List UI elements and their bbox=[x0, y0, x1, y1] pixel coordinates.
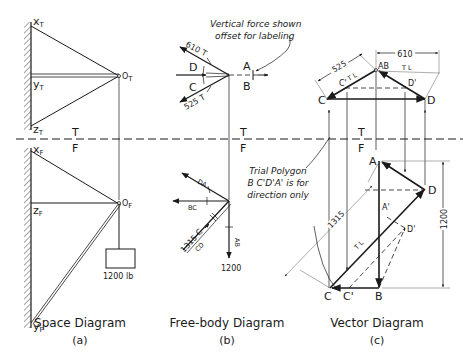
annotation-offset-line2: offset for labeling bbox=[215, 31, 295, 41]
member-xo-top bbox=[31, 26, 119, 76]
label-z-front: zF bbox=[33, 204, 43, 218]
trial-polygon-line2: B C'D'A' is for bbox=[247, 178, 309, 188]
vector-cd-front bbox=[330, 190, 424, 288]
member-zo-top bbox=[31, 76, 119, 126]
label-1200: 1200 bbox=[221, 264, 241, 273]
label-c-top: C bbox=[318, 94, 326, 107]
engineering-figure: xT yT zT OT xF zF yF OF 1200 lb T F Spac… bbox=[0, 0, 463, 356]
vector-da-front bbox=[382, 162, 425, 190]
label-ab: AB bbox=[233, 238, 241, 247]
caption-vector-diagram: Vector Diagram bbox=[330, 316, 424, 330]
fold-label-t: T bbox=[71, 126, 79, 139]
label-x-top: xT bbox=[33, 15, 45, 29]
caption-sub-b: (b) bbox=[219, 334, 235, 347]
caption-space-diagram: Space Diagram bbox=[34, 316, 126, 330]
label-b-front: B bbox=[375, 290, 383, 303]
force-da-arrow bbox=[182, 173, 229, 201]
label-bc: BC bbox=[188, 204, 197, 212]
label-d-front: D bbox=[428, 184, 436, 197]
label-d-prime-front: D' bbox=[407, 225, 415, 234]
fold-label-t-b: T bbox=[239, 126, 247, 139]
annotation-pointer bbox=[256, 36, 290, 71]
caption-sub-c: (c) bbox=[370, 334, 385, 347]
load-box bbox=[106, 249, 135, 268]
label-tl-front: T L bbox=[352, 239, 365, 252]
region-c: C bbox=[189, 81, 197, 94]
label-y-top: yT bbox=[33, 78, 45, 92]
label-1200-vector: 1200 bbox=[440, 209, 449, 229]
label-o-front: OF bbox=[122, 199, 132, 210]
member-xo-front bbox=[31, 151, 119, 204]
fold-label-f: F bbox=[72, 142, 78, 155]
label-c-prime-front: C' bbox=[343, 290, 354, 303]
label-525t: 525 T bbox=[183, 93, 207, 112]
label-c-prime-top: C' bbox=[339, 79, 347, 88]
region-b: B bbox=[243, 80, 251, 93]
label-o-top: OT bbox=[122, 72, 133, 83]
annotation-offset-line1: Vertical force shown bbox=[210, 19, 302, 29]
fold-label-f-c: F bbox=[358, 142, 364, 155]
fold-label-t-c: T bbox=[357, 126, 365, 139]
label-z-top: zT bbox=[33, 123, 44, 137]
caption-sub-a: (a) bbox=[72, 334, 87, 347]
wall-hatch-front bbox=[24, 148, 31, 328]
label-a-front: A bbox=[369, 155, 377, 168]
space-diagram: xT yT zT OT xF zF yF OF 1200 lb T F Spac… bbox=[24, 15, 135, 347]
wall-hatch-top bbox=[24, 22, 31, 130]
label-c-front: C bbox=[324, 290, 332, 303]
label-d-prime-top: D' bbox=[408, 79, 416, 88]
fold-label-f-b: F bbox=[240, 142, 246, 155]
label-a-prime-front: A' bbox=[382, 203, 390, 212]
label-tl-top-2: T L bbox=[401, 64, 412, 72]
region-d: D bbox=[189, 61, 197, 74]
load-label: 1200 lb bbox=[103, 272, 133, 281]
label-x-front: xF bbox=[33, 143, 44, 157]
label-ab-top: AB bbox=[378, 62, 389, 71]
trial-polygon-line1: Trial Polygon bbox=[249, 166, 307, 176]
caption-free-body-diagram: Free-body Diagram bbox=[170, 316, 285, 330]
vector-d-ab-top bbox=[379, 71, 425, 99]
trial-cd-front bbox=[349, 228, 405, 288]
trial-polygon-line3: direction only bbox=[247, 190, 309, 200]
vector-diagram: 610 525 T L T L AB C D C' D' T F bbox=[247, 50, 450, 347]
label-d-top: D bbox=[427, 94, 435, 107]
region-a: A bbox=[243, 60, 251, 73]
label-610: 610 bbox=[397, 50, 412, 59]
